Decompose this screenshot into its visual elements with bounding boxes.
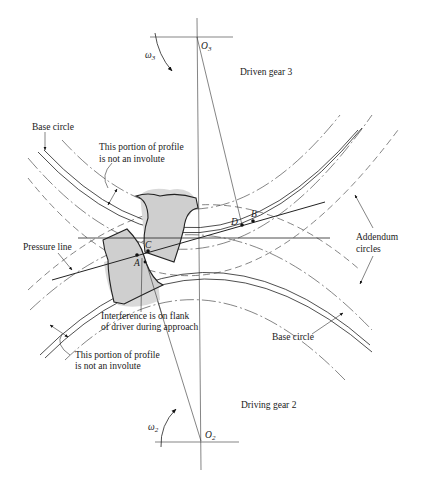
driven-gear-circles [28,115,398,276]
label-b: B [251,209,257,219]
point-d [240,223,244,227]
label-a: A [133,258,140,268]
point-a [135,253,139,257]
omega3-rotation-arrow [155,33,172,71]
omega2-rotation-arrow [161,409,176,447]
label-o2: O2 [205,430,216,442]
label-interference-2: of driver during approach [101,322,199,332]
label-portion-bottom-2: is not an involute [75,361,141,371]
label-driven-gear: Driven gear 3 [240,67,292,77]
label-portion-top-2: is not an involute [99,154,165,164]
label-addendum-2: circles [356,244,381,254]
label-portion-bottom-1: This portion of profile [75,350,160,360]
label-omega3: ω3 [145,50,156,62]
label-driving-gear: Driving gear 2 [241,400,297,410]
label-addendum-1: Addendum [356,232,399,242]
label-base-circle-top: Base circle [32,122,74,132]
label-d: D [230,217,238,227]
label-interference-1: Interference is on flank [101,311,190,321]
label-portion-top-1: This portion of profile [99,142,184,152]
label-base-circle-bottom: Base circle [272,332,314,342]
point-b [251,219,255,223]
label-o3: O3 [201,41,212,53]
gear-interference-diagram: A C D B O3 O2 ω3 ω2 Driven gear 3 Drivin… [0,0,421,486]
label-omega2: ω2 [148,422,159,434]
label-pressure-line: Pressure line [23,242,72,252]
label-c: C [145,240,152,250]
